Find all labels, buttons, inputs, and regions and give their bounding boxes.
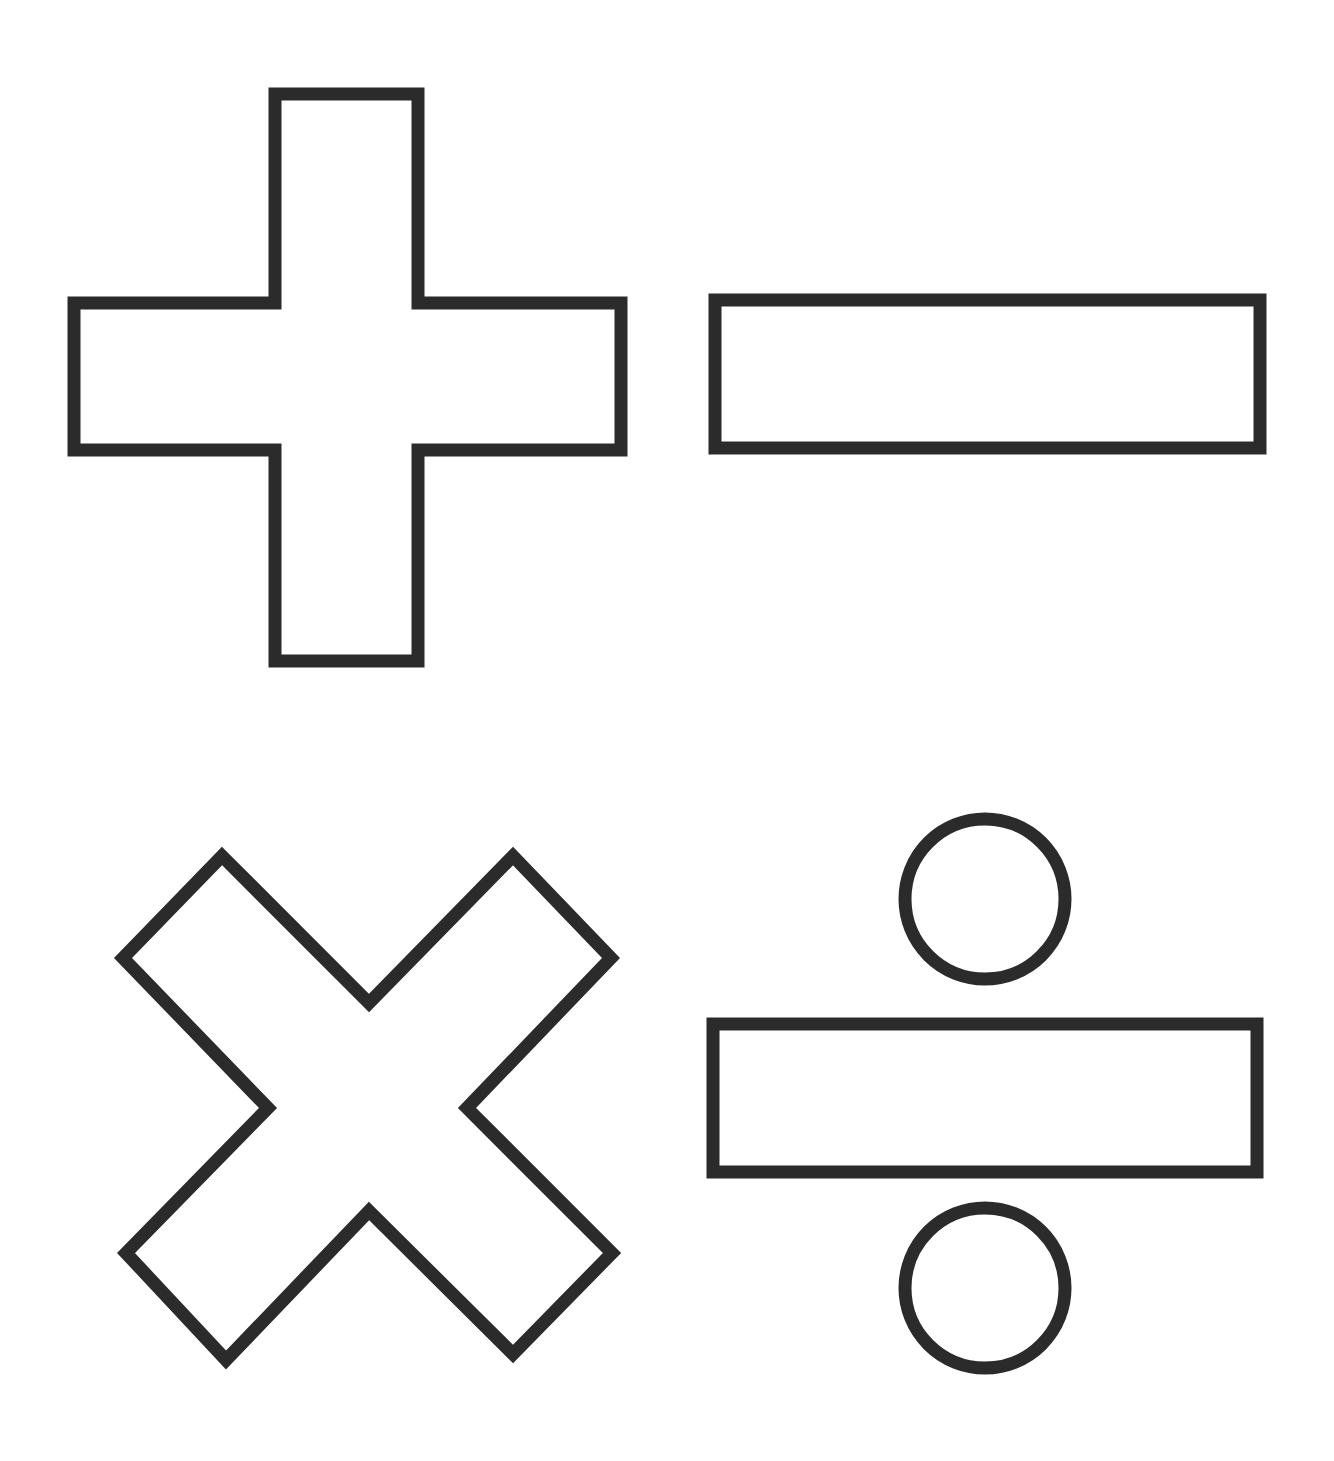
minus-icon xyxy=(715,300,1260,448)
divide-top-dot xyxy=(905,819,1065,979)
symbols-canvas xyxy=(0,0,1334,1461)
multiply-icon xyxy=(123,856,612,1360)
divide-bottom-dot xyxy=(905,1208,1065,1368)
plus-icon xyxy=(74,94,621,661)
divide-bar xyxy=(713,1024,1257,1172)
divide-icon xyxy=(713,819,1257,1368)
